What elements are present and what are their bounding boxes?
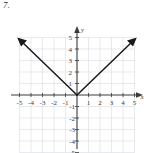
y-tick-label: -1: [69, 103, 75, 111]
y-tick-label: 4: [69, 46, 73, 54]
graph-svg: -5 -4 -3 -2 -1 1 2 3 4 5 5 4 3 2 1 -1 -2…: [0, 10, 147, 153]
x-tick-label: 1: [87, 99, 91, 107]
coordinate-plane-graph: -5 -4 -3 -2 -1 1 2 3 4 5 5 4 3 2 1 -1 -2…: [0, 10, 147, 153]
x-tick-label: 2: [98, 99, 102, 107]
x-tick-label: 3: [110, 99, 114, 107]
x-tick-label: -3: [40, 99, 46, 107]
y-tick-label: -5: [69, 149, 75, 153]
y-axis-label: y: [80, 26, 85, 34]
y-axis: [74, 26, 80, 149]
x-tick-label: -4: [28, 99, 34, 107]
x-tick-label: 5: [133, 99, 137, 107]
x-tick-label: -2: [51, 99, 57, 107]
x-tick-label: -1: [63, 99, 69, 107]
y-tick-label: -3: [69, 126, 75, 134]
y-tick-label: -4: [69, 138, 75, 146]
y-tick-label: -2: [69, 115, 75, 123]
y-tick-label: 2: [69, 69, 73, 77]
y-tick-label: 3: [69, 57, 73, 65]
problem-number-label: 7.: [3, 0, 10, 10]
x-tick-label: -5: [17, 99, 23, 107]
x-axis-label: x: [139, 93, 144, 101]
y-tick-label: 5: [69, 34, 73, 42]
x-tick-label: 4: [121, 99, 125, 107]
figure-container: 7.: [0, 0, 147, 153]
